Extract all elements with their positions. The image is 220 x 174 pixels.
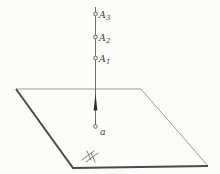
label-A3-subscript: 3: [106, 14, 110, 22]
figure-canvas: [0, 0, 220, 174]
plane-front-edges: [16, 89, 208, 168]
point-marker-A2: [94, 35, 98, 39]
label-A2-base: A: [99, 32, 106, 43]
label-point-A2: A2: [99, 32, 110, 47]
point-marker-a: [94, 125, 98, 129]
label-A2-subscript: 2: [106, 37, 110, 45]
geometry-figure: A3 A2 A1 a: [0, 0, 220, 174]
label-A3-base: A: [99, 9, 106, 20]
point-marker-A1: [94, 56, 98, 60]
label-A1-subscript: 1: [106, 58, 110, 66]
label-point-a: a: [100, 126, 106, 141]
direction-arrowhead-icon: [94, 94, 98, 111]
label-point-A1: A1: [99, 53, 110, 68]
label-point-A3: A3: [99, 9, 110, 24]
label-A1-base: A: [99, 53, 106, 64]
point-marker-A3: [94, 12, 98, 16]
label-a-base: a: [100, 126, 106, 137]
plane-hatch-icon: [82, 151, 98, 162]
